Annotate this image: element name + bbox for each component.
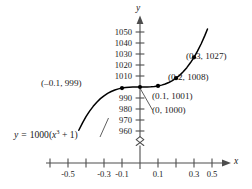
leader-line-origin <box>141 89 153 110</box>
data-point-pt-neg01 <box>120 86 124 90</box>
point-label-01-1001: (0.1, 1001) <box>152 92 193 101</box>
y-tick-label-970: 970 <box>104 116 132 125</box>
y-tick-label-960: 960 <box>104 127 132 136</box>
data-point-pt-01 <box>156 84 160 88</box>
x-axis-label: x <box>234 157 238 167</box>
x-tick-label-01: 0.1 <box>144 170 172 179</box>
y-tick-label-990: 990 <box>104 94 132 103</box>
x-tick-label-neg05: -0.5 <box>54 170 82 179</box>
x-tick-label-neg01: -0.1 <box>108 170 136 179</box>
point-label-02-1008: (0.2, 1008) <box>168 73 209 82</box>
equation-coefficient: 1000( <box>30 129 52 140</box>
y-tick-label-1030: 1030 <box>104 50 132 59</box>
y-tick-label-1040: 1040 <box>104 39 132 48</box>
y-tick-label-1010: 1010 <box>104 72 132 81</box>
equation-label: y=1000(x3 + 1) <box>14 130 78 140</box>
equation-tail: + 1) <box>60 129 78 140</box>
graph-figure: 1050 1040 1030 1020 1010 990 980 970 960… <box>0 0 252 189</box>
equation-lhs: y <box>14 129 18 140</box>
y-tick-label-1050: 1050 <box>104 28 132 37</box>
y-axis-label: y <box>136 4 140 14</box>
y-tick-label-1020: 1020 <box>104 61 132 70</box>
point-label-03-1027: (0.3, 1027) <box>186 52 227 61</box>
equation-equals: = <box>21 129 26 140</box>
point-label-0-1000: (0, 1000) <box>152 106 186 115</box>
point-label-neg01-999: (–0.1, 999) <box>41 79 82 88</box>
axis-break-symbol <box>136 137 144 146</box>
x-tick-label-05: 0.5 <box>198 170 226 179</box>
x-axis <box>46 160 231 167</box>
y-tick-label-980: 980 <box>104 105 132 114</box>
data-point-pt-zero <box>138 85 142 89</box>
